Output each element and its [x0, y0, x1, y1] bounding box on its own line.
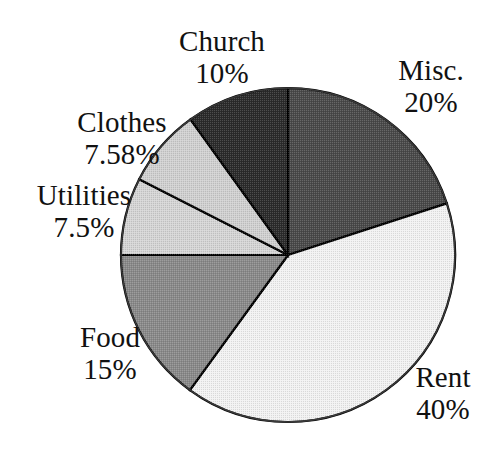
- slice-label-clothes: Clothes 7.58%: [42, 107, 202, 169]
- slice-label-misc: Misc. 20%: [372, 55, 490, 117]
- pie-chart: Church 10% Misc. 20% Clothes 7.58% Utili…: [0, 0, 500, 449]
- slice-label-utilities-value: 7.5%: [14, 212, 154, 243]
- slice-label-church: Church 10%: [152, 26, 292, 88]
- slice-label-church-name: Church: [152, 26, 292, 57]
- slice-label-misc-value: 20%: [372, 87, 490, 118]
- slice-label-food-value: 15%: [50, 354, 170, 385]
- slice-label-clothes-value: 7.58%: [42, 139, 202, 170]
- slice-label-misc-name: Misc.: [372, 55, 490, 86]
- slice-label-food: Food 15%: [50, 322, 170, 384]
- slice-label-food-name: Food: [50, 322, 170, 353]
- slice-label-utilities: Utilities 7.5%: [14, 180, 154, 242]
- slice-label-rent: Rent 40%: [388, 362, 498, 424]
- slice-label-rent-name: Rent: [388, 362, 498, 393]
- slice-label-church-value: 10%: [152, 58, 292, 89]
- slice-label-clothes-name: Clothes: [42, 107, 202, 138]
- slice-label-rent-value: 40%: [388, 394, 498, 425]
- slice-label-utilities-name: Utilities: [14, 180, 154, 211]
